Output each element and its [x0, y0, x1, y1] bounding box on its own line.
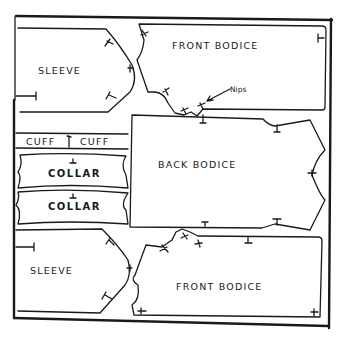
back-bodice-label: BACK BODICE [158, 159, 237, 170]
pattern-layout: SLEEVE FRONT BODICE Nips CUFF CUFF COLLA… [0, 0, 342, 339]
sleeve-bottom-label: SLEEVE [30, 265, 73, 276]
collar-1-piece: COLLAR [18, 154, 128, 188]
front-bodice-bottom-label: FRONT BODICE [176, 281, 262, 292]
front-bodice-top-label: FRONT BODICE [172, 40, 258, 51]
sleeve-bottom-piece: SLEEVE [16, 229, 132, 313]
sleeve-top-label: SLEEVE [38, 65, 81, 76]
front-bodice-top-piece: FRONT BODICE [137, 24, 326, 116]
nips-label: Nips [230, 85, 246, 94]
back-bodice-piece: BACK BODICE [130, 115, 325, 230]
collar-1-label: COLLAR [48, 168, 101, 179]
sleeve-top-piece: SLEEVE [16, 28, 135, 112]
collar-2-piece: COLLAR [16, 190, 128, 224]
front-bodice-bottom-piece: FRONT BODICE [132, 229, 322, 317]
collar-2-label: COLLAR [48, 201, 101, 212]
arrow-icon [207, 89, 230, 101]
cuff-strip: CUFF CUFF [16, 133, 128, 149]
cuff-left-label: CUFF [26, 136, 55, 147]
nips-annotation: Nips [207, 85, 246, 101]
cuff-right-label: CUFF [80, 136, 109, 147]
